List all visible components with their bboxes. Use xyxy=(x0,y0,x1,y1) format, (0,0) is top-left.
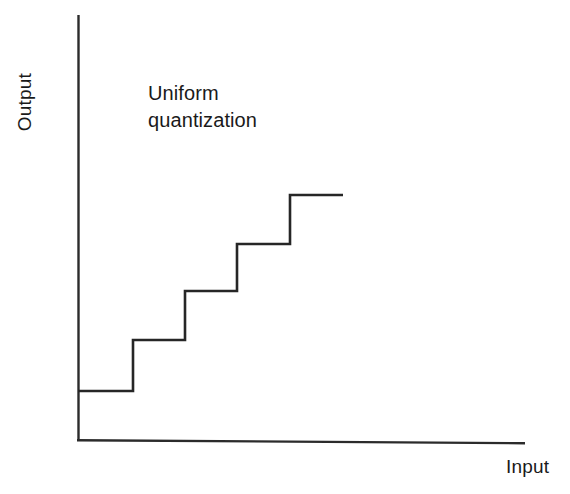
quantization-step-plot xyxy=(0,0,570,494)
y-axis-label: Output xyxy=(14,73,36,131)
chart-annotation-uniform-quantization: Uniform quantization xyxy=(148,80,257,134)
x-axis-label: Input xyxy=(506,456,549,478)
quantization-staircase-curve xyxy=(78,195,343,391)
x-axis-line xyxy=(77,440,525,443)
chart-figure: Output Input Uniform quantization xyxy=(0,0,570,494)
